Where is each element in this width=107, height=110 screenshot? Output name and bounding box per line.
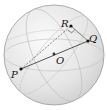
label-o: O — [56, 55, 64, 66]
point-r — [69, 24, 72, 27]
label-p: P — [10, 69, 18, 80]
sphere-diagram: P Q R O — [0, 0, 107, 110]
label-r: R — [60, 18, 69, 29]
point-o — [53, 53, 56, 56]
point-p — [19, 67, 22, 70]
label-q: Q — [89, 33, 97, 44]
